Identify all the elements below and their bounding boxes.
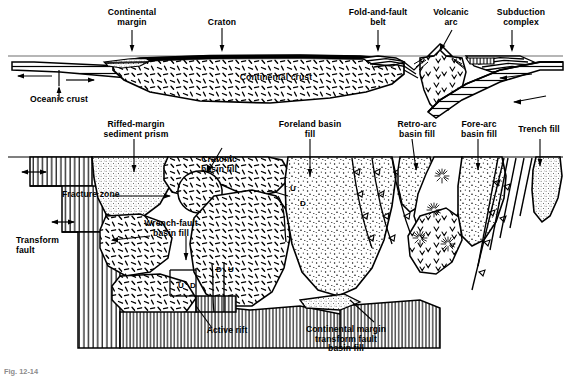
cross-section-drawing [0,0,571,376]
label-fracture-zone: Fracture zone [62,190,138,200]
label-wrench-fault-basin-fill: Wrench-fault basin fill [134,219,208,238]
label-cm-transform-fault-basin-fill: Continental margin transform fault basin… [292,325,400,354]
label-continental-crust: Continental crust [224,73,328,83]
fault-marker-d-1: D [300,199,306,208]
forearc-basin-upper [466,58,494,64]
convergence-arrows [499,74,546,105]
label-transform-fault: Transform fault [16,236,84,255]
label-fold-and-fault-belt: Fold-and-fault belt [338,8,418,27]
trench-fill-body [532,157,562,222]
fault-marker-d-3: D [190,281,196,290]
label-rifted-margin-sediment-prism: Riffed-margin sediment prism [92,120,180,139]
label-craton: Craton [190,18,254,28]
fault-marker-u-2: U [228,265,234,274]
figure-caption: Fig. 12-14 [4,367,38,376]
label-fore-arc-basin-fill: Fore-arc basin fill [448,120,510,139]
label-subduction-complex: Subduction complex [484,8,558,27]
label-cratonic-basin-fill: Cratonic basin fill [186,155,252,174]
figure-canvas: Continental margin Craton Fold-and-fault… [0,0,571,376]
label-foreland-basin-fill: Foreland basin fill [266,120,354,139]
label-active-rift: Active rift [196,326,258,336]
label-volcanic-arc: Volcanic arc [420,8,482,27]
fault-marker-u-3: U [178,281,184,290]
label-continental-margin: Continental margin [96,8,168,27]
fault-marker-u-1: U [290,184,296,193]
fault-marker-d-2: D [216,265,222,274]
label-oceanic-crust: Oceanic crust [14,95,104,105]
label-retro-arc-basin-fill: Retro-arc basin fill [384,120,450,139]
label-trench-fill: Trench fill [510,125,568,135]
lower-panel [8,139,563,348]
foreland-basin-body [285,157,396,296]
